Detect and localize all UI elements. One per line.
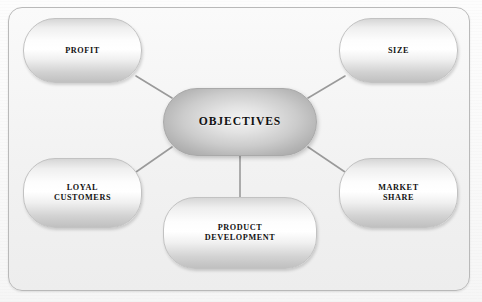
node-loyal-customers[interactable]: LOYAL CUSTOMERS	[23, 158, 142, 228]
node-label-market-share: MARKET SHARE	[378, 183, 418, 202]
diagram-canvas: PROFITSIZELOYAL CUSTOMERSMARKET SHAREPRO…	[0, 0, 482, 302]
node-market-share[interactable]: MARKET SHARE	[339, 158, 458, 228]
node-label-profit: PROFIT	[65, 46, 100, 56]
connector-center-to-market-share	[308, 147, 345, 172]
node-objectives[interactable]: OBJECTIVES	[163, 88, 317, 156]
node-label-size: SIZE	[388, 46, 409, 56]
connector-center-to-loyal-customers	[136, 147, 172, 172]
connector-center-to-size	[308, 76, 345, 98]
node-label-product-development: PRODUCT DEVELOPMENT	[205, 223, 276, 242]
connector-center-to-profit	[136, 76, 172, 98]
node-profit[interactable]: PROFIT	[23, 18, 142, 83]
node-label-loyal-customers: LOYAL CUSTOMERS	[54, 183, 111, 202]
node-product-development[interactable]: PRODUCT DEVELOPMENT	[163, 197, 317, 269]
node-size[interactable]: SIZE	[339, 18, 458, 83]
node-label-objectives: OBJECTIVES	[199, 115, 281, 129]
